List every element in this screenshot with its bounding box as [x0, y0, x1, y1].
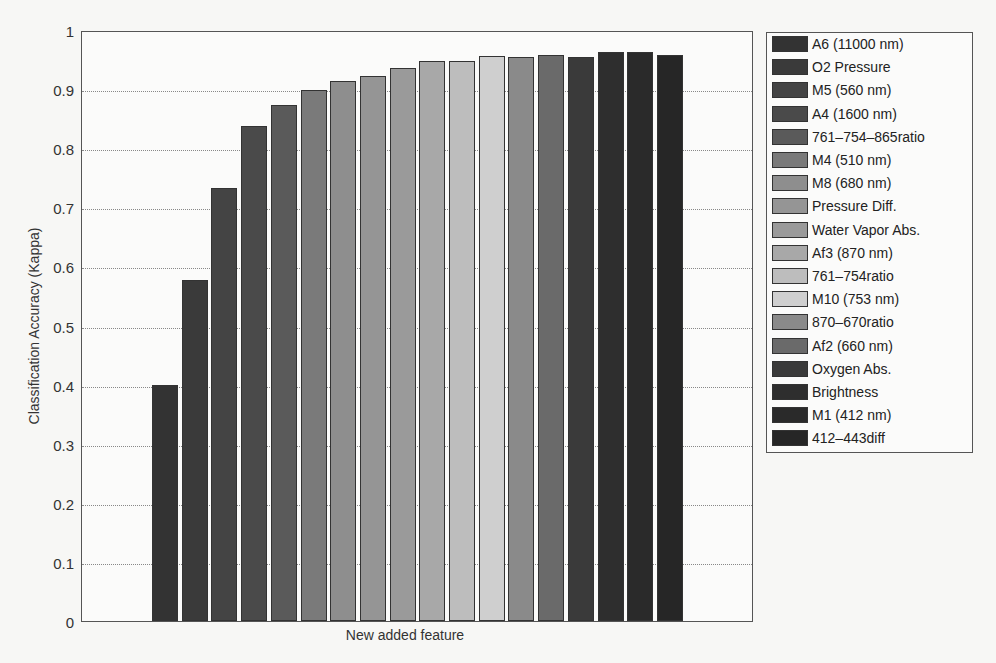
bar	[479, 56, 505, 621]
legend-item: M8 (680 nm)	[772, 175, 891, 191]
x-axis-label: New added feature	[315, 627, 495, 643]
plot-area	[81, 31, 753, 622]
bar	[657, 55, 683, 621]
legend-swatch	[772, 106, 808, 122]
legend-item: Water Vapor Abs.	[772, 222, 920, 238]
legend-label: M10 (753 nm)	[812, 291, 899, 307]
y-tick-label: 0.8	[14, 141, 74, 158]
y-tick-label: 0	[14, 614, 74, 631]
legend-item: 870–670ratio	[772, 314, 894, 330]
legend-item: A6 (11000 nm)	[772, 36, 904, 52]
bar	[211, 188, 237, 621]
legend-swatch	[772, 129, 808, 145]
legend-item: A4 (1600 nm)	[772, 106, 897, 122]
legend-swatch	[772, 268, 808, 284]
legend-swatch	[772, 36, 808, 52]
bar	[152, 385, 178, 621]
legend-item: M5 (560 nm)	[772, 82, 891, 98]
legend-item: Brightness	[772, 384, 878, 400]
bar	[627, 52, 653, 621]
legend-label: 412–443diff	[812, 430, 885, 446]
bar	[538, 55, 564, 621]
legend-item: 412–443diff	[772, 430, 885, 446]
legend-label: M1 (412 nm)	[812, 407, 891, 423]
bar	[271, 105, 297, 621]
legend-swatch	[772, 361, 808, 377]
legend-item: Af2 (660 nm)	[772, 338, 893, 354]
legend-item: 761–754ratio	[772, 268, 894, 284]
legend-item: Oxygen Abs.	[772, 361, 891, 377]
legend-label: O2 Pressure	[812, 59, 891, 75]
y-tick-label: 1	[14, 23, 74, 40]
legend-label: Brightness	[812, 384, 878, 400]
legend-label: A6 (11000 nm)	[812, 36, 904, 52]
bar	[182, 280, 208, 621]
legend-item: Af3 (870 nm)	[772, 245, 893, 261]
legend-swatch	[772, 152, 808, 168]
legend: A6 (11000 nm)O2 PressureM5 (560 nm)A4 (1…	[766, 32, 973, 453]
legend-swatch	[772, 82, 808, 98]
legend-swatch	[772, 198, 808, 214]
bar	[568, 57, 594, 621]
y-tick-label: 0.9	[14, 82, 74, 99]
legend-item: 761–754–865ratio	[772, 129, 925, 145]
y-tick-label: 0.7	[14, 200, 74, 217]
bar	[241, 126, 267, 621]
legend-swatch	[772, 430, 808, 446]
legend-item: O2 Pressure	[772, 59, 891, 75]
legend-label: Water Vapor Abs.	[812, 222, 920, 238]
legend-swatch	[772, 59, 808, 75]
legend-item: M1 (412 nm)	[772, 407, 891, 423]
legend-label: 761–754–865ratio	[812, 129, 925, 145]
legend-item: Pressure Diff.	[772, 198, 897, 214]
legend-swatch	[772, 245, 808, 261]
legend-label: 870–670ratio	[812, 314, 894, 330]
legend-label: 761–754ratio	[812, 268, 894, 284]
legend-label: M8 (680 nm)	[812, 175, 891, 191]
legend-swatch	[772, 407, 808, 423]
legend-swatch	[772, 314, 808, 330]
legend-label: M5 (560 nm)	[812, 82, 891, 98]
legend-swatch	[772, 338, 808, 354]
y-tick-label: 0.1	[14, 554, 74, 571]
legend-swatch	[772, 175, 808, 191]
legend-label: Af3 (870 nm)	[812, 245, 893, 261]
legend-label: A4 (1600 nm)	[812, 106, 897, 122]
bar	[419, 61, 445, 621]
bar	[449, 61, 475, 621]
bar	[360, 76, 386, 621]
legend-swatch	[772, 291, 808, 307]
legend-label: Af2 (660 nm)	[812, 338, 893, 354]
legend-label: M4 (510 nm)	[812, 152, 891, 168]
y-tick-label: 0.5	[14, 318, 74, 335]
legend-swatch	[772, 222, 808, 238]
y-tick-label: 0.6	[14, 259, 74, 276]
bar	[598, 52, 624, 621]
legend-label: Oxygen Abs.	[812, 361, 891, 377]
bar	[330, 81, 356, 621]
bar	[390, 68, 416, 621]
bar	[301, 90, 327, 621]
legend-item: M4 (510 nm)	[772, 152, 891, 168]
y-tick-label: 0.2	[14, 495, 74, 512]
y-tick-label: 0.3	[14, 436, 74, 453]
y-tick-label: 0.4	[14, 377, 74, 394]
legend-swatch	[772, 384, 808, 400]
bar	[508, 57, 534, 621]
legend-label: Pressure Diff.	[812, 198, 897, 214]
legend-item: M10 (753 nm)	[772, 291, 899, 307]
